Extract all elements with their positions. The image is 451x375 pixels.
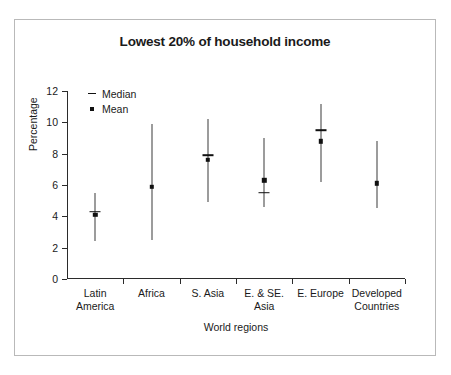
range-line bbox=[264, 138, 265, 207]
x-tick bbox=[405, 279, 406, 284]
x-tick bbox=[123, 279, 124, 284]
y-tick bbox=[62, 279, 67, 280]
x-tick bbox=[236, 279, 237, 284]
mean-marker bbox=[375, 181, 379, 185]
x-axis-title: World regions bbox=[67, 321, 405, 333]
chart-title: Lowest 20% of household income bbox=[15, 34, 435, 49]
y-tick bbox=[62, 154, 67, 155]
y-tick-label: 0 bbox=[52, 273, 58, 285]
y-tick bbox=[62, 216, 67, 217]
y-tick-label: 6 bbox=[52, 179, 58, 191]
y-axis-line bbox=[67, 91, 68, 279]
mean-marker bbox=[206, 158, 210, 162]
x-tick-label: Africa bbox=[138, 287, 165, 300]
x-tick-label: Latin America bbox=[76, 287, 115, 312]
x-tick-label: E. Europe bbox=[297, 287, 344, 300]
chart-figure: Lowest 20% of household income Percentag… bbox=[14, 19, 436, 356]
range-line bbox=[376, 141, 377, 208]
mean-marker bbox=[262, 178, 266, 182]
x-tick-label: Developed Countries bbox=[352, 287, 402, 312]
x-tick bbox=[292, 279, 293, 284]
y-tick-label: 12 bbox=[46, 85, 58, 97]
plot-area: 024681012 Latin AmericaAfricaS. AsiaE. &… bbox=[67, 91, 405, 279]
y-tick-label: 10 bbox=[46, 116, 58, 128]
y-tick bbox=[62, 91, 67, 92]
y-tick-label: 2 bbox=[52, 242, 58, 254]
mean-marker bbox=[93, 213, 97, 217]
x-tick-label: E. & SE. Asia bbox=[244, 287, 284, 312]
median-marker bbox=[259, 192, 270, 194]
y-axis-title: Percentage bbox=[27, 97, 39, 151]
median-marker bbox=[315, 129, 326, 131]
y-tick-label: 8 bbox=[52, 148, 58, 160]
y-tick bbox=[62, 122, 67, 123]
x-tick bbox=[180, 279, 181, 284]
mean-marker bbox=[318, 139, 322, 143]
median-marker bbox=[202, 154, 213, 156]
y-tick bbox=[62, 185, 67, 186]
range-line bbox=[151, 124, 152, 240]
range-line bbox=[95, 193, 96, 242]
x-tick-label: S. Asia bbox=[191, 287, 224, 300]
mean-marker bbox=[149, 184, 153, 188]
x-tick bbox=[349, 279, 350, 284]
y-tick bbox=[62, 248, 67, 249]
y-tick-label: 4 bbox=[52, 210, 58, 222]
